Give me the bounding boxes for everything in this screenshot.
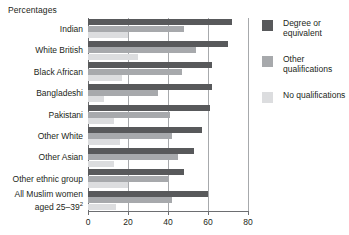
bar xyxy=(88,54,138,60)
bar xyxy=(88,197,172,203)
light-gray-swatch xyxy=(262,92,273,103)
x-tick-label-40: 40 xyxy=(163,217,172,227)
chart-title: Percentages xyxy=(8,5,57,15)
category-label: Indian xyxy=(0,24,83,34)
category-label: Other Asian xyxy=(0,152,83,162)
category-label: Bangladeshi xyxy=(0,88,83,98)
x-tick-mark-0 xyxy=(88,211,89,215)
category-label: All Muslim womenaged 25–392 xyxy=(0,189,83,212)
bar xyxy=(88,176,168,182)
category-label: White British xyxy=(0,45,83,55)
legend-label: Other qualifications xyxy=(283,55,349,74)
bar xyxy=(88,105,210,111)
bar xyxy=(88,112,170,118)
bar-chart: Percentages 020406080 IndianWhite Britis… xyxy=(0,0,349,235)
bar xyxy=(88,118,114,124)
bar xyxy=(88,139,120,145)
bar xyxy=(88,26,184,32)
x-tick-label-80: 80 xyxy=(243,217,252,227)
category-label: Other White xyxy=(0,131,83,141)
bar xyxy=(88,148,194,154)
bar xyxy=(88,62,212,68)
category-label: Pakistani xyxy=(0,110,83,120)
mid-gray-swatch xyxy=(262,56,273,67)
x-tick-mark-80 xyxy=(248,211,249,215)
x-tick-label-20: 20 xyxy=(123,217,132,227)
gridline-60 xyxy=(208,18,209,212)
x-tick-label-60: 60 xyxy=(203,217,212,227)
bar xyxy=(88,32,128,38)
bar xyxy=(88,169,184,175)
bar xyxy=(88,41,228,47)
x-tick-mark-20 xyxy=(128,211,129,215)
bar xyxy=(88,47,196,53)
category-label: Other ethnic group xyxy=(0,174,83,184)
bar xyxy=(88,96,104,102)
bar xyxy=(88,127,202,133)
x-tick-label-0: 0 xyxy=(86,217,91,227)
bar xyxy=(88,19,232,25)
dark-gray-swatch xyxy=(262,20,273,31)
bar xyxy=(88,75,122,81)
bar xyxy=(88,90,158,96)
bar xyxy=(88,204,116,210)
bar xyxy=(88,69,182,75)
bar xyxy=(88,182,128,188)
x-tick-mark-60 xyxy=(208,211,209,215)
legend-label: No qualifications xyxy=(283,91,349,101)
bar xyxy=(88,191,208,197)
gridline-80 xyxy=(248,18,249,212)
legend-label: Degree or equivalent xyxy=(283,19,349,38)
bar xyxy=(88,154,178,160)
bar xyxy=(88,133,172,139)
category-label: Black African xyxy=(0,67,83,77)
bar xyxy=(88,84,212,90)
x-tick-mark-40 xyxy=(168,211,169,215)
bar xyxy=(88,161,114,167)
